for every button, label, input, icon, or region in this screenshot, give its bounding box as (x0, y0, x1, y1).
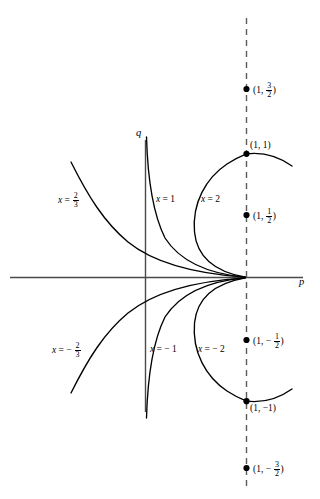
curve-label-eq: = (205, 344, 210, 354)
plot-canvas (0, 0, 320, 499)
curve-label-lhs: x (52, 345, 56, 355)
fraction-denominator: 3 (75, 351, 81, 359)
point-sign: − (266, 336, 271, 346)
fraction-denominator: 2 (274, 342, 280, 350)
fraction-denominator: 2 (266, 217, 272, 225)
fraction-one-half: 1 2 (266, 208, 272, 225)
curve-label-x-two-thirds: x = 2 3 (58, 192, 79, 209)
point-x-value: 1, (253, 140, 260, 150)
curve-label-lhs: x (201, 194, 205, 204)
curve-label-lhs: x (156, 194, 160, 204)
point-dot-1-neg-1 (243, 398, 249, 404)
curve-label-value: 2 (220, 344, 225, 354)
paren-close: ) (267, 140, 270, 150)
curve-label-x-two: x = 2 (201, 195, 220, 205)
curve-label-sign: − (212, 344, 217, 354)
point-label-1-neg-one-half: (1, − 1 2 ) (253, 333, 284, 350)
curve-label-x-neg-one: x = − 1 (150, 345, 177, 355)
point-sign: − (266, 464, 271, 474)
curve-label-lhs: x (58, 195, 62, 205)
point-dot-1-three-halves (243, 86, 249, 92)
point-label-1-1: (1, 1) (250, 141, 271, 151)
point-dot-1-neg-one-half (243, 337, 249, 343)
curve-label-value: 1 (172, 344, 177, 354)
point-dot-1-1 (243, 151, 249, 157)
point-x-value: 1, (256, 464, 263, 474)
point-label-1-neg-1: (1, −1) (250, 404, 276, 414)
curve-label-sign: − (66, 345, 71, 355)
mathematical-figure: q p x = 2 3 x = 1 x = 2 x = − 2 3 x = − … (0, 0, 320, 499)
fraction-two-thirds: 2 3 (75, 342, 81, 359)
fraction-two-thirds: 2 3 (73, 192, 79, 209)
fraction-denominator: 2 (274, 470, 280, 478)
point-dot-1-one-half (243, 212, 249, 218)
point-x-value: 1, (256, 336, 263, 346)
fraction-three-halves: 3 2 (274, 461, 280, 478)
q-axis-label: q (136, 128, 141, 139)
curve-label-eq: = (59, 345, 64, 355)
p-axis-label: p (299, 277, 304, 288)
paren-close: ) (273, 211, 276, 221)
fraction-denominator: 2 (266, 91, 272, 99)
curve-label-lhs: x (198, 344, 202, 354)
curve-label-eq: = (157, 344, 162, 354)
curve-label-eq: = (65, 195, 70, 205)
curve-label-lhs: x (150, 344, 154, 354)
point-dot-1-neg-three-halves (243, 465, 249, 471)
curve-label-sign: − (164, 344, 169, 354)
point-x-value: 1, (256, 85, 263, 95)
curve-label-x-neg-two-thirds: x = − 2 3 (52, 342, 81, 359)
curve-label-eq: = (208, 194, 213, 204)
paren-close: ) (280, 336, 283, 346)
curve-label-value: 1 (170, 194, 175, 204)
curve-label-eq: = (163, 194, 168, 204)
paren-close: ) (273, 403, 276, 413)
point-label-1-neg-three-halves: (1, − 3 2 ) (253, 461, 284, 478)
curve-x-two-upper (194, 153, 292, 277)
fraction-denominator: 3 (73, 201, 79, 209)
point-x-value: 1, (253, 403, 260, 413)
point-label-1-three-halves: (1, 3 2 ) (253, 82, 276, 99)
curve-label-value: 2 (215, 194, 220, 204)
point-x-value: 1, (256, 211, 263, 221)
paren-close: ) (280, 464, 283, 474)
fraction-one-half: 1 2 (274, 333, 280, 350)
fraction-three-halves: 3 2 (266, 82, 272, 99)
paren-close: ) (273, 85, 276, 95)
curve-label-x-neg-two: x = − 2 (198, 345, 225, 355)
point-label-1-one-half: (1, 1 2 ) (253, 208, 276, 225)
curve-label-x-one: x = 1 (156, 195, 175, 205)
